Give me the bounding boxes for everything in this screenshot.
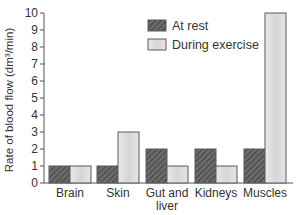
bar-exercise-muscles bbox=[265, 13, 286, 183]
x-category-label: Brain bbox=[56, 186, 84, 200]
y-tick-label: 10 bbox=[25, 6, 39, 20]
bar-at-rest-kidneys bbox=[195, 149, 216, 183]
y-tick-label: 6 bbox=[31, 74, 38, 88]
y-tick-label: 2 bbox=[31, 142, 38, 156]
legend-label: At rest bbox=[172, 19, 209, 33]
y-tick-label: 3 bbox=[31, 125, 38, 139]
y-tick-label: 4 bbox=[31, 108, 38, 122]
bar-exercise-brain bbox=[70, 166, 91, 183]
y-tick-label: 8 bbox=[31, 40, 38, 54]
bar-exercise-kidneys bbox=[216, 166, 237, 183]
y-axis-title: Rate of blood flow (dm³/min) bbox=[3, 28, 15, 173]
y-tick-label: 0 bbox=[31, 176, 38, 190]
bar-exercise-skin bbox=[118, 132, 139, 183]
x-axis-labels: BrainSkinGut andliverKidneysMuscles bbox=[56, 186, 287, 213]
blood-flow-bar-chart: 012345678910 Rate of blood flow (dm³/min… bbox=[0, 0, 298, 215]
bar-exercise-gut-and-liver bbox=[167, 166, 188, 183]
x-category-label: Skin bbox=[106, 186, 129, 200]
x-category-label: liver bbox=[156, 199, 178, 213]
y-tick-label: 1 bbox=[31, 159, 38, 173]
bar-at-rest-gut-and-liver bbox=[146, 149, 167, 183]
bar-at-rest-skin bbox=[97, 166, 118, 183]
y-axis-label: Rate of blood flow (dm³/min) bbox=[3, 28, 15, 173]
y-tick-label: 5 bbox=[31, 91, 38, 105]
bar-at-rest-brain bbox=[49, 166, 70, 183]
x-category-label: Kidneys bbox=[195, 186, 238, 200]
x-category-label: Gut and bbox=[146, 186, 189, 200]
x-category-label: Muscles bbox=[243, 186, 287, 200]
legend-swatch-exercise bbox=[148, 39, 166, 50]
legend-swatch-at-rest bbox=[148, 20, 166, 31]
legend: At restDuring exercise bbox=[148, 19, 259, 52]
y-tick-label: 7 bbox=[31, 57, 38, 71]
legend-label: During exercise bbox=[172, 38, 259, 52]
y-tick-label: 9 bbox=[31, 23, 38, 37]
bar-at-rest-muscles bbox=[244, 149, 265, 183]
